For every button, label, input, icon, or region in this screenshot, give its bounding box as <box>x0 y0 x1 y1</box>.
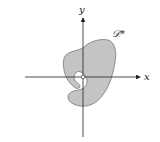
origin-open-point <box>81 75 85 79</box>
region-label: 𝒟* <box>112 28 125 39</box>
region-d-star <box>63 39 115 106</box>
y-axis-label: y <box>78 4 85 15</box>
diagram-canvas: y x 𝒟* <box>0 0 160 142</box>
x-axis-label: x <box>144 71 150 82</box>
